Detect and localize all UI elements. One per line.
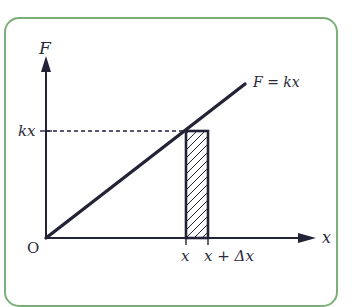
y-axis-label: F [38, 38, 52, 58]
line-equation-label: F = kx [252, 74, 300, 90]
x-axis-label: x [322, 228, 331, 247]
hatched-strip [186, 131, 208, 238]
force-line [46, 84, 245, 238]
strip-left-tick-label: x [181, 247, 190, 265]
kx-level-label: kx [18, 122, 36, 140]
y-axis [40, 56, 52, 238]
y-axis-arrow-icon [41, 56, 51, 72]
origin-label: O [27, 239, 39, 257]
x-axis [46, 233, 316, 245]
strip-right-tick-label: x + Δx [204, 247, 254, 265]
x-axis-arrow-icon [298, 233, 316, 243]
